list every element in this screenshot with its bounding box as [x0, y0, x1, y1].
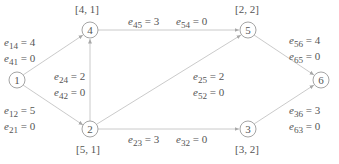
edge-label-e36: e36 = 3 — [289, 104, 320, 120]
edge-2-5-labels: e25 = 2 e52 = 0 — [193, 70, 224, 102]
node-3-label: 3 — [245, 123, 251, 135]
edge-5-6-labels: e56 = 4 e65 = 0 — [289, 34, 320, 66]
node-2-label: 2 — [87, 123, 93, 135]
edge-3-6-labels: e36 = 3 e63 = 0 — [289, 104, 320, 136]
node-5-annotation: [2, 2] — [235, 3, 259, 16]
edge-1-4-labels: e14 = 4 e41 = 0 — [4, 36, 35, 68]
edge-label-e45: e45 = 3 — [128, 15, 159, 31]
edge-label-e14: e14 = 4 — [4, 36, 35, 52]
edge-1-2-labels: e12 = 5 e21 = 0 — [4, 104, 35, 136]
node-4-annotation: [4, 1] — [75, 3, 99, 16]
edge-label-e54: e54 = 0 — [176, 15, 207, 31]
edge-label-e41: e41 = 0 — [4, 52, 35, 68]
edge-label-e32: e32 = 0 — [176, 133, 207, 149]
edge-2-4-labels: e24 = 2 e42 = 0 — [54, 70, 85, 102]
edge-label-e12: e12 = 5 — [4, 104, 35, 120]
node-6-label: 6 — [318, 74, 324, 86]
edge-label-e52: e52 = 0 — [193, 86, 224, 102]
node-2-annotation: [5, 1] — [76, 143, 100, 156]
edge-label-e23: e23 = 3 — [128, 133, 159, 149]
edge-label-e24: e24 = 2 — [54, 70, 85, 86]
node-5-label: 5 — [245, 24, 251, 36]
network-graph: 1 2 3 4 5 6 — [0, 0, 339, 164]
edge-label-e56: e56 = 4 — [289, 34, 320, 50]
node-4-label: 4 — [87, 24, 93, 36]
edge-label-e21: e21 = 0 — [4, 120, 35, 136]
node-3-annotation: [3, 2] — [235, 143, 259, 156]
edge-label-e42: e42 = 0 — [54, 86, 85, 102]
node-1-label: 1 — [14, 74, 20, 86]
edge-label-e25: e25 = 2 — [193, 70, 224, 86]
edge-label-e63: e63 = 0 — [289, 120, 320, 136]
edge-label-e65: e65 = 0 — [289, 50, 320, 66]
